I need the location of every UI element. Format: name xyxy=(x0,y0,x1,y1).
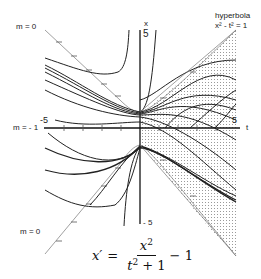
differential-equation: x′ = x2 t2 + 1 − 1 xyxy=(0,233,261,279)
x-axis-label: x xyxy=(144,20,148,28)
numerator-exponent: 2 xyxy=(147,237,153,247)
t-axis-label: t xyxy=(246,124,248,132)
hyperbola-equation-label: x² - t² = 1 xyxy=(215,22,247,30)
isocline-label-upper: m = 0 xyxy=(16,23,36,31)
equation-equals: = xyxy=(107,248,118,263)
shaded-hyperbola-region xyxy=(140,30,236,256)
equation-lhs: x′ xyxy=(92,248,102,263)
equation-fraction: x2 t2 + 1 xyxy=(127,237,165,273)
x-max-tick-label: 5 xyxy=(143,29,149,39)
t-max-tick-label: 5 xyxy=(232,116,237,125)
denominator-rest: + 1 xyxy=(138,258,165,273)
t-min-tick-label: -5 xyxy=(40,116,48,125)
hyperbola-label: hyperbola xyxy=(215,12,250,20)
x-min-tick-label: - 5 xyxy=(143,219,152,227)
isocline-label-middle: m = - 1 xyxy=(13,124,38,132)
equation-tail: − 1 xyxy=(170,248,193,263)
